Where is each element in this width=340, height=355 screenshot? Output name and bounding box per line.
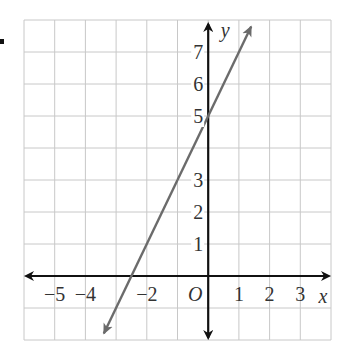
y-tick-label: 3 bbox=[193, 169, 203, 191]
y-tick-label: 6 bbox=[193, 73, 203, 95]
x-tick-label: 2 bbox=[265, 283, 275, 305]
y-tick-label: 5 bbox=[193, 105, 203, 127]
x-tick-label: 1 bbox=[234, 283, 244, 305]
x-tick-label: −2 bbox=[136, 283, 157, 305]
coordinate-plane: −5−4−2123765321Oxy bbox=[0, 0, 340, 355]
y-tick-label: 1 bbox=[193, 233, 203, 255]
y-axis-label: y bbox=[219, 19, 230, 42]
x-tick-label: −5 bbox=[44, 283, 65, 305]
x-tick-label: −4 bbox=[75, 283, 96, 305]
x-axis-label: x bbox=[318, 285, 328, 307]
y-tick-label: 2 bbox=[193, 201, 203, 223]
origin-label: O bbox=[188, 283, 202, 305]
x-tick-label: 3 bbox=[295, 283, 305, 305]
y-tick-label: 7 bbox=[193, 41, 203, 63]
